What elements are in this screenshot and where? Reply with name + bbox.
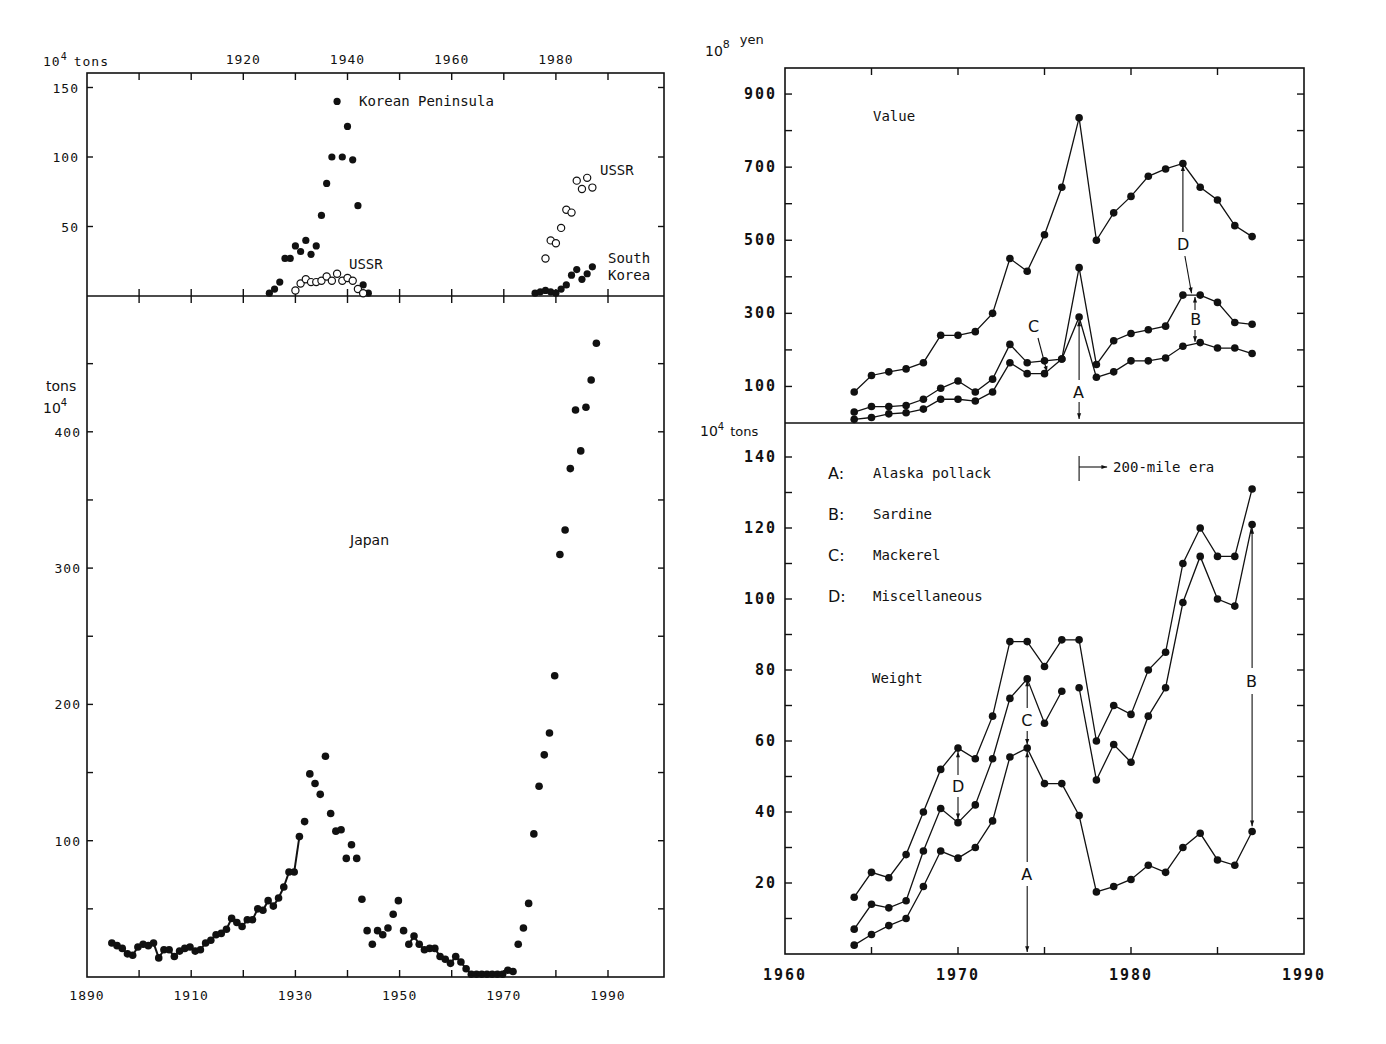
weight-title: Weight (872, 670, 923, 686)
weight-annot-b: B (1246, 672, 1257, 691)
series-ussr (542, 174, 596, 262)
weight-x-tick-label: 1980 (1109, 966, 1153, 984)
series-ussr-prewar- (292, 270, 367, 297)
weight-unit-label: 104tons (700, 421, 758, 439)
value-y-tick-label: 300 (744, 304, 777, 322)
weight-series-2 (850, 744, 1255, 949)
legend-label-a: Alaska pollack (873, 465, 992, 481)
korean-peninsula-label: Korean Peninsula (359, 93, 494, 109)
value-annot-c: C (1028, 317, 1039, 336)
value-unit-label: 108yen (705, 32, 764, 59)
weight-y-tick-label: 80 (755, 661, 777, 679)
weight-y-tick-label: 40 (755, 803, 777, 821)
right-frame (785, 68, 1304, 954)
japan-x-tick-label: 1910 (174, 988, 209, 1003)
weight-y-tick-label: 20 (755, 874, 777, 892)
south-korea-label-1: South (608, 250, 650, 266)
left-frame (87, 73, 664, 977)
value-y-tick-label: 500 (744, 231, 777, 249)
value-annot-a: A (1073, 383, 1084, 402)
japan-label: Japan (349, 532, 389, 548)
japan-x-tick-label: 1890 (69, 988, 104, 1003)
weight-y-tick-label: 140 (744, 448, 777, 466)
legend-label-b: Sardine (873, 506, 932, 522)
value-series-0 (850, 114, 1255, 396)
value-annot-d: D (1177, 235, 1189, 254)
legend-label-c: Mackerel (873, 547, 940, 563)
japan-x-tick-label: 1970 (486, 988, 521, 1003)
weight-y-tick-label: 100 (744, 590, 777, 608)
japan-y-tick-label: 200 (55, 697, 81, 712)
legend-key-d: D: (828, 587, 846, 606)
weight-annot-a: A (1021, 865, 1032, 884)
weight-x-tick-label: 1970 (936, 966, 980, 984)
legend-key-a: A: (828, 464, 844, 483)
japan-x-tick-label: 1990 (590, 988, 625, 1003)
value-annotations: CADB (1028, 165, 1201, 419)
value-y-tick-label: 100 (744, 377, 777, 395)
weight-x-tick-label: 1990 (1282, 966, 1326, 984)
top-x-tick-label: 1940 (330, 52, 365, 67)
japan-unit-tons: tons (46, 378, 76, 394)
left-panel: 192019401960198050100150104tonsKorean Pe… (43, 51, 664, 1003)
japan-y-tick-label: 100 (55, 834, 81, 849)
legend-key-b: B: (828, 505, 844, 524)
legend: A:Alaska pollackB:SardineC:MackerelD:Mis… (828, 464, 992, 606)
south-korea-label-2: Korea (608, 267, 650, 283)
value-title: Value (873, 108, 915, 124)
value-y-tick-label: 900 (744, 85, 777, 103)
japan-y-tick-label: 300 (55, 561, 81, 576)
weight-series-1 (850, 521, 1255, 933)
japan-y-tick-label: 400 (55, 425, 81, 440)
ussr-label: USSR (600, 162, 634, 178)
weight-annot-d: D (952, 777, 964, 796)
top-x-tick-label: 1920 (226, 52, 261, 67)
ussr-prewar-label: USSR (349, 256, 383, 272)
weight-x-tick-label: 1960 (763, 966, 807, 984)
right-panel: 100300500700900108yenValueCADB2040608010… (700, 32, 1326, 984)
era-annotation: 200-mile era (1079, 456, 1214, 481)
left-top-unit-label: 104tons (43, 51, 109, 69)
top-y-tick-label: 50 (61, 220, 79, 235)
japan-x-tick-label: 1950 (382, 988, 417, 1003)
weight-y-tick-label: 60 (755, 732, 777, 750)
top-x-tick-label: 1960 (434, 52, 469, 67)
japan-x-tick-label: 1930 (278, 988, 313, 1003)
top-x-tick-label: 1980 (538, 52, 573, 67)
value-annot-b: B (1190, 310, 1201, 329)
value-series-2 (850, 313, 1255, 423)
top-y-tick-label: 150 (53, 81, 79, 96)
series-south-korea (531, 263, 596, 297)
value-y-tick-label: 700 (744, 158, 777, 176)
legend-key-c: C: (828, 546, 845, 565)
top-y-tick-label: 100 (53, 150, 79, 165)
series-japan (108, 339, 600, 978)
weight-annot-c: C (1021, 711, 1032, 730)
era-label: 200-mile era (1113, 459, 1214, 475)
figure: 192019401960198050100150104tonsKorean Pe… (0, 0, 1386, 1044)
weight-y-tick-label: 120 (744, 519, 777, 537)
legend-label-d: Miscellaneous (873, 588, 983, 604)
japan-unit-power: 104 (43, 397, 67, 416)
